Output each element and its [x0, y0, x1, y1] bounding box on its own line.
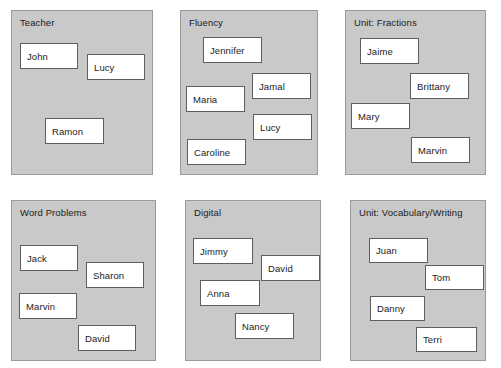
name-box[interactable]: Jennifer: [203, 37, 262, 63]
name-box[interactable]: Jamal: [252, 73, 311, 99]
name-box[interactable]: Jack: [20, 245, 78, 271]
name-box[interactable]: Lucy: [87, 54, 145, 80]
group-panel-title: Fluency: [189, 17, 223, 28]
name-box-label: Juan: [370, 245, 397, 256]
name-box[interactable]: Lucy: [253, 114, 312, 140]
group-panel[interactable]: TeacherJohnLucyRamon: [11, 10, 153, 175]
name-box-label: Terri: [417, 334, 442, 345]
name-box-label: Caroline: [188, 147, 230, 158]
name-box[interactable]: Maria: [186, 86, 245, 112]
name-box[interactable]: Ramon: [45, 118, 104, 144]
name-box-label: Jennifer: [204, 45, 245, 56]
name-box-label: Anna: [201, 288, 230, 299]
name-box-label: Brittany: [411, 81, 450, 92]
group-panel[interactable]: FluencyJenniferJamalMariaLucyCaroline: [180, 10, 318, 175]
name-box[interactable]: Caroline: [187, 139, 246, 165]
group-panel[interactable]: Unit: Vocabulary/WritingJuanTomDannyTerr…: [350, 200, 486, 361]
name-box[interactable]: David: [78, 325, 136, 351]
diagram-canvas: TeacherJohnLucyRamonFluencyJenniferJamal…: [0, 0, 501, 368]
name-box-label: Mary: [352, 111, 380, 122]
name-box-label: Marvin: [412, 145, 447, 156]
name-box[interactable]: Brittany: [410, 73, 469, 99]
group-panel-title: Unit: Fractions: [354, 17, 417, 28]
group-panel-title: Digital: [194, 207, 221, 218]
group-panel[interactable]: Unit: FractionsJaimeBrittanyMaryMarvin: [345, 10, 486, 175]
name-box-label: Nancy: [236, 321, 269, 332]
name-box[interactable]: Marvin: [411, 137, 470, 163]
name-box-label: Danny: [371, 303, 405, 314]
name-box[interactable]: Mary: [351, 103, 410, 129]
name-box-label: Lucy: [88, 62, 114, 73]
name-box-label: Ramon: [46, 126, 83, 137]
name-box-label: Tom: [426, 272, 450, 283]
name-box-label: Sharon: [87, 270, 124, 281]
group-panel-title: Word Problems: [20, 207, 87, 218]
name-box[interactable]: Marvin: [19, 293, 77, 319]
name-box[interactable]: Jaime: [360, 38, 419, 64]
name-box[interactable]: Danny: [370, 296, 425, 321]
name-box[interactable]: Tom: [425, 265, 484, 290]
name-box[interactable]: David: [261, 255, 320, 281]
name-box[interactable]: Nancy: [235, 313, 294, 339]
name-box[interactable]: Juan: [369, 238, 428, 263]
group-panel-title: Unit: Vocabulary/Writing: [359, 207, 463, 218]
name-box-label: Maria: [187, 94, 217, 105]
name-box-label: Jamal: [253, 81, 285, 92]
name-box-label: Jaime: [361, 46, 393, 57]
group-panel-title: Teacher: [20, 17, 55, 28]
name-box[interactable]: Terri: [416, 327, 477, 352]
name-box-label: Lucy: [254, 122, 280, 133]
name-box[interactable]: John: [20, 43, 78, 69]
name-box[interactable]: Sharon: [86, 262, 144, 288]
name-box-label: David: [262, 263, 293, 274]
name-box[interactable]: Jimmy: [193, 238, 253, 264]
name-box-label: Marvin: [20, 301, 55, 312]
group-panel[interactable]: DigitalJimmyDavidAnnaNancy: [185, 200, 321, 361]
group-panel[interactable]: Word ProblemsJackSharonMarvinDavid: [11, 200, 156, 361]
name-box[interactable]: Anna: [200, 280, 260, 306]
name-box-label: John: [21, 51, 48, 62]
name-box-label: Jimmy: [194, 246, 228, 257]
name-box-label: David: [79, 333, 110, 344]
name-box-label: Jack: [21, 253, 47, 264]
